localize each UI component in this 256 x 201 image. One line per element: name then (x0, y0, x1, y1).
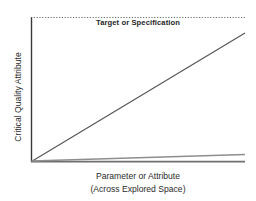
chart-container: Target or Specification Critical Quality… (0, 0, 256, 201)
x-axis-label-line2: (Across Explored Space) (31, 183, 245, 196)
x-axis-label-line1: Parameter or Attribute (31, 170, 245, 183)
specification-limit-label: Target or Specification (31, 18, 245, 27)
y-axis-label: Critical Quality Attribute (11, 22, 25, 172)
series-shallow-response-line (32, 155, 246, 162)
x-axis-label: Parameter or Attribute (Across Explored … (31, 170, 245, 195)
series-steep-response-line (32, 33, 246, 162)
